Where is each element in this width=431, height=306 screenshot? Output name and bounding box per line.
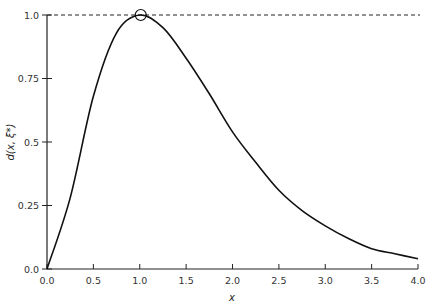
axes — [47, 15, 418, 269]
y-tick-label: 0.0 — [24, 264, 39, 275]
x-tick-label: 1.5 — [179, 275, 194, 286]
y-tick-label: 1.0 — [24, 10, 39, 21]
y-tick-label: 0.25 — [18, 200, 39, 211]
x-tick-label: 3.0 — [318, 275, 333, 286]
y-axis-title: d(x, ξ*) — [5, 123, 16, 160]
data-curve — [47, 15, 418, 269]
x-tick-label: 0.0 — [39, 275, 54, 286]
x-tick-label: 2.5 — [271, 275, 286, 286]
x-axis-title: x — [228, 292, 235, 303]
x-tick-label: 1.0 — [132, 275, 147, 286]
x-tick-label: 4.0 — [410, 275, 425, 286]
x-tick-label: 2.0 — [225, 275, 240, 286]
y-tick-label: 0.5 — [24, 137, 39, 148]
x-tick-label: 3.5 — [364, 275, 379, 286]
x-axis-ticks: 0.00.51.01.52.02.53.03.54.0 — [39, 264, 425, 286]
x-tick-label: 0.5 — [86, 275, 101, 286]
chart-canvas: 0.00.51.01.52.02.53.03.54.0 0.00.250.50.… — [0, 0, 431, 306]
y-tick-label: 0.75 — [18, 73, 39, 84]
